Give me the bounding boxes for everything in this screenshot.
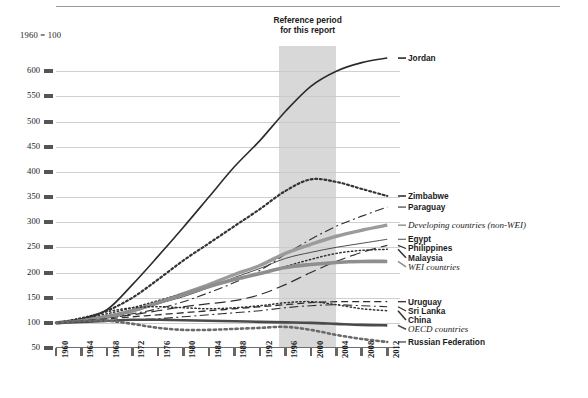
y-axis-label: 400 (10, 166, 40, 176)
ref-caption-line2: for this report (280, 25, 335, 35)
series-label-paraguay: Paraguay (408, 202, 445, 212)
series-label-zimbabwe: Zimbabwe (408, 191, 449, 201)
x-axis-tick (80, 348, 83, 356)
header-rule (56, 6, 560, 7)
x-axis-label: 1980 (187, 341, 197, 358)
label-leader-line (398, 307, 406, 311)
y-axis-label: 100 (10, 317, 40, 327)
x-axis-label: 1976 (162, 341, 172, 358)
x-axis-label: 1988 (238, 341, 248, 358)
x-axis-label: 2012 (391, 341, 401, 358)
y-axis-tick (44, 271, 53, 275)
label-leader-line (398, 311, 406, 320)
series-label-jordan: Jordan (408, 53, 436, 63)
label-leader-line (398, 249, 406, 257)
y-axis-label: 550 (10, 90, 40, 100)
y-axis-label: 450 (10, 141, 40, 151)
x-axis-label: 1992 (264, 341, 274, 358)
label-leader-line (398, 245, 406, 248)
x-axis-tick (157, 348, 160, 356)
x-axis-tick (55, 348, 58, 356)
series-label-oecd-countries: OECD countries (408, 324, 468, 334)
chart-figure: 1960 = 100 50100150200250300350400450500… (0, 0, 588, 398)
label-leader-line (398, 261, 406, 266)
y-axis-label: 250 (10, 241, 40, 251)
y-axis-tick (44, 120, 53, 124)
x-axis-tick (284, 348, 287, 356)
x-axis-label: 1964 (85, 341, 95, 358)
y-axis-label: 200 (10, 267, 40, 277)
x-axis-label: 2000 (315, 341, 325, 358)
x-axis-tick (310, 348, 313, 356)
label-leader-line (398, 325, 406, 329)
y-axis-tick (44, 69, 53, 73)
x-axis-tick (360, 348, 363, 356)
base-year-note: 1960 = 100 (20, 30, 61, 40)
x-axis-label: 1960 (60, 341, 70, 358)
y-axis-tick (44, 346, 53, 350)
reference-caption-text: Reference periodfor this report (260, 16, 356, 36)
x-axis-tick (259, 348, 262, 356)
y-axis-tick (44, 170, 53, 174)
x-axis-label: 1972 (136, 341, 146, 358)
x-axis-tick (182, 348, 185, 356)
y-axis-label: 300 (10, 216, 40, 226)
x-axis-label: 2008 (366, 341, 376, 358)
y-axis-label: 500 (10, 116, 40, 126)
x-axis-tick (131, 348, 134, 356)
x-axis-label: 1968 (111, 341, 121, 358)
y-axis-label: 50 (10, 342, 40, 352)
y-axis-tick (44, 245, 53, 249)
y-axis-label: 600 (10, 65, 40, 75)
x-axis-tick (208, 348, 211, 356)
series-lines (56, 46, 400, 348)
series-label-developing-countries-non-wei: Developing countries (non-WEI) (408, 220, 526, 230)
series-label-russian-federation: Russian Federation (408, 337, 485, 347)
series-line (56, 179, 387, 323)
x-axis-tick (386, 348, 389, 356)
y-axis-tick (44, 220, 53, 224)
x-axis-label: 2004 (340, 341, 350, 358)
ref-caption-line1: Reference period (273, 15, 341, 25)
y-axis-tick (44, 145, 53, 149)
series-label-wei-countries: WEI countries (408, 262, 460, 272)
x-axis-tick (335, 348, 338, 356)
x-axis-tick (106, 348, 109, 356)
series-line (56, 207, 387, 323)
y-axis-tick (44, 321, 53, 325)
y-axis-label: 350 (10, 191, 40, 201)
x-axis-label: 1996 (289, 341, 299, 358)
x-axis-tick (233, 348, 236, 356)
y-axis-tick (44, 94, 53, 98)
plot-area: 50100150200250300350400450500550600 1960… (56, 46, 400, 348)
y-axis-tick (44, 296, 53, 300)
y-axis-tick (44, 195, 53, 199)
x-axis-label: 1984 (213, 341, 223, 358)
y-axis-label: 150 (10, 292, 40, 302)
